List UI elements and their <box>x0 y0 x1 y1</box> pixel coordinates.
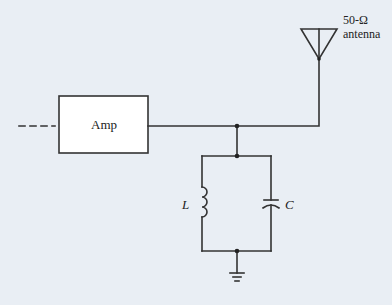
antenna-label: 50-Ω antenna <box>343 13 380 41</box>
inductor-coil <box>202 187 207 217</box>
amp-label: Amp <box>59 96 149 154</box>
output-wire <box>148 59 319 126</box>
antenna-label-text: antenna <box>343 27 380 41</box>
antenna-label-impedance: 50-Ω <box>343 13 380 27</box>
circuit-diagram: Amp 50-Ω antenna L C <box>0 0 392 305</box>
junction-dot-antenna <box>317 57 321 61</box>
junction-dot-tank-top <box>235 154 240 159</box>
junction-dot-output <box>235 124 240 129</box>
inductor-label: L <box>182 197 189 213</box>
capacitor-label: C <box>285 197 294 213</box>
junction-dot-tank-bottom <box>235 249 240 254</box>
